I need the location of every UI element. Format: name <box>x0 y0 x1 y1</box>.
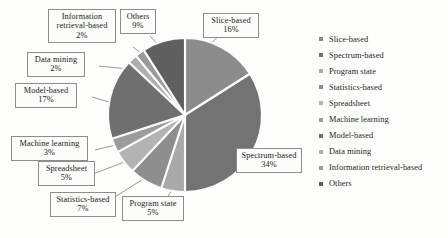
callout-label-line2: retrieval-based <box>57 21 108 30</box>
callout-percent: 7% <box>54 204 112 214</box>
callout-percent: 2% <box>52 31 112 41</box>
callout-percent: 17% <box>19 95 73 105</box>
callout-label-line1: Information <box>62 12 103 21</box>
legend-item-spectrum-based[interactable]: Spectrum-based <box>319 47 445 63</box>
legend-item-label: Model-based <box>329 131 373 140</box>
legend-swatch-icon <box>319 101 323 105</box>
legend-swatch-icon <box>319 85 323 89</box>
legend-swatch-icon <box>319 166 323 170</box>
legend-swatch-icon <box>319 118 323 122</box>
legend-swatch-icon <box>319 150 323 154</box>
callout-spectrum-based: Spectrum-based 34% <box>236 148 302 173</box>
callout-spreadsheet: Spreadsheet 5% <box>38 161 95 186</box>
callout-statistics-based: Statistics-based 7% <box>50 192 116 217</box>
legend-swatch-icon <box>319 69 323 73</box>
legend-item-label: Information retrieval-based <box>329 163 422 172</box>
legend-item-label: Others <box>329 179 352 188</box>
legend-item-label: Data mining <box>329 147 371 156</box>
callout-percent: 2% <box>31 64 81 74</box>
callout-percent: 3% <box>15 148 84 158</box>
chart-legend: Slice-basedSpectrum-basedProgram stateSt… <box>319 31 445 192</box>
callout-label: Slice-based <box>211 16 250 25</box>
legend-item-slice-based[interactable]: Slice-based <box>319 31 445 47</box>
legend-item-information-retrieval-based[interactable]: Information retrieval-based <box>319 160 445 176</box>
callout-information-retrieval-based: Information retrieval-based 2% <box>48 9 116 43</box>
callout-program-state: Program state 5% <box>122 196 184 221</box>
legend-swatch-icon <box>319 53 323 57</box>
legend-swatch-icon <box>319 182 323 186</box>
legend-item-label: Program state <box>329 67 376 76</box>
callout-label: Program state <box>129 199 176 208</box>
callout-percent: 5% <box>126 208 180 218</box>
callout-label: Machine learning <box>20 139 80 148</box>
callout-label: Spreadsheet <box>46 164 87 173</box>
legend-item-label: Spectrum-based <box>329 51 384 60</box>
callout-percent: 16% <box>207 25 255 35</box>
callout-percent: 5% <box>42 173 91 183</box>
callout-label: Statistics-based <box>56 195 109 204</box>
callout-data-mining: Data mining 2% <box>27 52 85 77</box>
legend-item-data-mining[interactable]: Data mining <box>319 144 445 160</box>
legend-item-program-state[interactable]: Program state <box>319 63 445 79</box>
legend-item-spreadsheet[interactable]: Spreadsheet <box>319 95 445 111</box>
legend-item-label: Spreadsheet <box>329 99 370 108</box>
callout-others: Others 9% <box>120 9 156 34</box>
callout-slice-based: Slice-based 16% <box>203 13 259 38</box>
legend-item-label: Slice-based <box>329 35 368 44</box>
pie-chart-figure: Information retrieval-based 2% Others 9%… <box>0 0 448 238</box>
legend-item-label: Statistics-based <box>329 83 382 92</box>
callout-label: Spectrum-based <box>242 151 297 160</box>
pie-graphic <box>102 37 268 197</box>
legend-item-machine-learning[interactable]: Machine learning <box>319 111 445 127</box>
legend-item-statistics-based[interactable]: Statistics-based <box>319 79 445 95</box>
callout-label: Data mining <box>35 55 77 64</box>
legend-item-model-based[interactable]: Model-based <box>319 128 445 144</box>
callout-percent: 9% <box>124 21 152 31</box>
pie-svg <box>102 37 268 197</box>
callout-model-based: Model-based 17% <box>15 83 77 108</box>
legend-swatch-icon <box>319 37 323 41</box>
callout-label: Others <box>127 12 150 21</box>
legend-swatch-icon <box>319 134 323 138</box>
callout-percent: 34% <box>240 160 298 170</box>
callout-label: Model-based <box>24 86 68 95</box>
legend-item-label: Machine learning <box>329 115 389 124</box>
legend-item-others[interactable]: Others <box>319 176 445 192</box>
callout-machine-learning: Machine learning 3% <box>11 136 88 161</box>
